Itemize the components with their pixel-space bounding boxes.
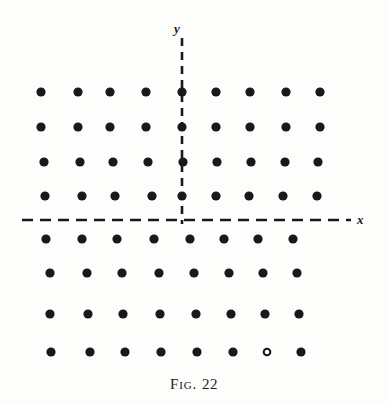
lattice-point-group <box>36 87 324 356</box>
lattice-point <box>141 122 150 131</box>
lattice-point <box>105 87 114 96</box>
lattice-point <box>177 191 186 200</box>
lattice-point <box>110 191 119 200</box>
lattice-point <box>281 87 290 96</box>
lattice-plot-area: y x <box>0 0 388 372</box>
lattice-point <box>224 268 233 277</box>
lattice-point <box>315 87 324 96</box>
lattice-point <box>141 87 150 96</box>
lattice-point <box>246 157 255 166</box>
lattice-point <box>39 157 48 166</box>
lattice-point <box>212 157 221 166</box>
lattice-point <box>105 122 114 131</box>
figure-page: y x Fig.22 <box>0 0 388 404</box>
lattice-point <box>192 347 201 356</box>
lattice-point <box>258 268 267 277</box>
lattice-point <box>281 122 290 131</box>
lattice-point <box>315 122 324 131</box>
lattice-point <box>143 157 152 166</box>
lattice-point <box>177 122 186 131</box>
x-axis-label: x <box>357 213 364 226</box>
lattice-point <box>292 268 301 277</box>
lattice-point <box>177 87 186 96</box>
lattice-point <box>108 157 117 166</box>
lattice-point <box>244 191 253 200</box>
lattice-point <box>149 234 158 243</box>
lattice-point <box>156 347 165 356</box>
lattice-point <box>75 157 84 166</box>
lattice-point <box>117 268 126 277</box>
lattice-point <box>41 234 50 243</box>
lattice-point <box>178 157 187 166</box>
lattice-point <box>288 234 297 243</box>
lattice-point <box>118 309 127 318</box>
lattice-point <box>313 157 322 166</box>
lattice-point <box>36 122 45 131</box>
lattice-point <box>112 234 121 243</box>
lattice-point <box>73 122 82 131</box>
figure-caption: Fig.22 <box>0 376 388 393</box>
y-axis-label: y <box>174 22 180 35</box>
lattice-point <box>147 191 156 200</box>
lattice-point <box>312 191 321 200</box>
lattice-point <box>77 234 86 243</box>
lattice-point <box>45 268 54 277</box>
lattice-point <box>82 268 91 277</box>
lattice-point <box>253 234 262 243</box>
lattice-point-hollow <box>264 349 271 356</box>
lattice-point <box>189 268 198 277</box>
lattice-point <box>294 309 303 318</box>
lattice-point <box>260 309 269 318</box>
lattice-point <box>83 309 92 318</box>
figure-caption-number: 22 <box>202 376 218 392</box>
lattice-point <box>245 122 254 131</box>
figure-caption-prefix: Fig. <box>170 376 197 392</box>
lattice-point <box>40 191 49 200</box>
lattice-point <box>73 87 82 96</box>
lattice-point <box>211 122 220 131</box>
lattice-point <box>46 347 55 356</box>
lattice-point <box>245 87 254 96</box>
lattice-point <box>226 309 235 318</box>
lattice-point <box>191 309 200 318</box>
lattice-point <box>185 234 194 243</box>
lattice-point <box>85 347 94 356</box>
lattice-point <box>280 157 289 166</box>
lattice-point <box>296 347 305 356</box>
lattice-point <box>120 347 129 356</box>
lattice-point <box>219 234 228 243</box>
lattice-point <box>278 191 287 200</box>
lattice-point <box>77 191 86 200</box>
lattice-point <box>154 268 163 277</box>
lattice-point <box>211 87 220 96</box>
lattice-diagram <box>0 0 388 372</box>
lattice-point <box>45 309 54 318</box>
lattice-point <box>211 191 220 200</box>
lattice-point <box>36 87 45 96</box>
lattice-point <box>155 309 164 318</box>
lattice-point <box>228 347 237 356</box>
